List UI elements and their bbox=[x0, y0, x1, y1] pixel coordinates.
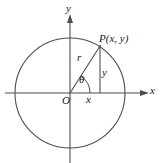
trig-circle-figure: P(x, y) r θ y x O x y bbox=[0, 0, 160, 163]
radius-segment bbox=[70, 46, 100, 93]
point-p-marker bbox=[99, 45, 101, 47]
label-axis-y: y bbox=[66, 3, 71, 14]
label-origin: O bbox=[62, 95, 70, 106]
label-point-p: P(x, y) bbox=[99, 33, 128, 44]
label-axis-x: x bbox=[150, 85, 155, 96]
y-axis-arrow-icon bbox=[67, 14, 73, 23]
label-side-y: y bbox=[102, 67, 107, 78]
label-radius: r bbox=[77, 52, 81, 63]
label-theta-angle: θ bbox=[79, 74, 84, 85]
label-side-x: x bbox=[86, 94, 91, 105]
x-axis-arrow-icon bbox=[140, 90, 149, 96]
